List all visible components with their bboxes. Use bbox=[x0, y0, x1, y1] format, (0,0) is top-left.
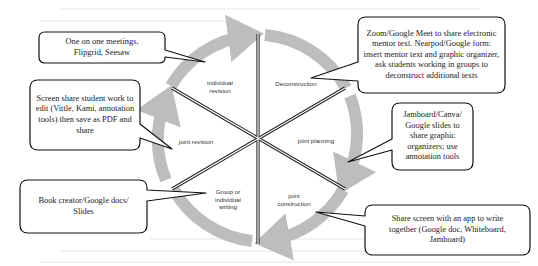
teaching-cycle-diagram: individual revision Deconstruction joint… bbox=[0, 0, 538, 266]
stage-label-text: Deconstruction bbox=[275, 80, 316, 88]
callout-text: Jamboard/Canva/ Google slides to share g… bbox=[398, 110, 468, 163]
stage-label-joint-revision: joint revision bbox=[179, 138, 213, 146]
callout-group-individual-writing: Book creator/Google docs/ Slides bbox=[20, 180, 147, 233]
callout-text: Share screen with an app to write togeth… bbox=[378, 214, 518, 246]
callout-joint-planning: Jamboard/Canva/ Google slides to share g… bbox=[392, 103, 473, 170]
callout-individual-revision: One on one meetings, Flipgrid, Seesaw bbox=[39, 32, 165, 63]
stage-label-individual-revision: individual revision bbox=[207, 79, 233, 94]
stage-label-group-individual-writing: Group or individual writing bbox=[215, 188, 241, 211]
stage-label-joint-construction: joint construction bbox=[277, 192, 310, 207]
stage-label-joint-planning: joint planning bbox=[298, 137, 334, 145]
callout-deconstruction: Zoom/Google Meet to share electronic men… bbox=[358, 17, 505, 93]
arrow-joint-planning bbox=[347, 96, 357, 178]
stage-label-text: joint construction bbox=[277, 192, 310, 207]
callout-text: Book creator/Google docs/ Slides bbox=[32, 196, 136, 217]
stage-label-text: Group or individual writing bbox=[215, 188, 241, 211]
stage-label-deconstruction: Deconstruction bbox=[275, 80, 316, 88]
stage-label-text: individual revision bbox=[207, 79, 233, 94]
stage-label-text: joint planning bbox=[298, 137, 334, 145]
callout-text: Zoom/Google Meet to share electronic men… bbox=[364, 29, 500, 82]
stage-label-text: joint revision bbox=[179, 138, 213, 146]
callout-text: One on one meetings, Flipgrid, Seesaw bbox=[58, 37, 146, 58]
callout-text: Screen share student work to edit (Vittl… bbox=[35, 94, 135, 136]
callout-joint-construction: Share screen with an app to write togeth… bbox=[365, 205, 530, 255]
callout-joint-revision: Screen share student work to edit (Vittl… bbox=[30, 80, 140, 150]
